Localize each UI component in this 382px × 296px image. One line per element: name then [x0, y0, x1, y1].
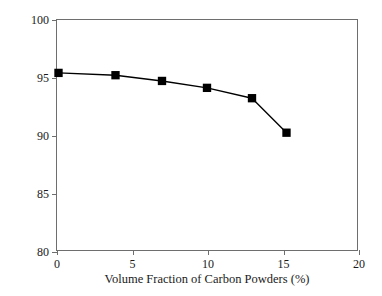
y-axis-tick	[52, 20, 57, 21]
x-axis-tick	[208, 250, 209, 255]
series-markers	[54, 69, 290, 137]
x-axis-tick	[133, 250, 134, 255]
x-axis-tick-label: 0	[54, 257, 60, 272]
chart-figure: 8085909510005101520 Ratio of Recoverable…	[0, 0, 382, 296]
y-axis-tick	[52, 78, 57, 79]
y-axis-tick	[52, 136, 57, 137]
x-axis-tick	[359, 250, 360, 255]
plot-area: 8085909510005101520	[56, 19, 358, 251]
y-axis-tick	[52, 194, 57, 195]
data-point-marker	[203, 84, 211, 92]
series-line	[59, 73, 287, 133]
data-point-marker	[111, 71, 119, 79]
y-axis-tick-label: 80	[37, 245, 49, 260]
data-point-marker	[282, 129, 290, 137]
y-axis-tick-label: 90	[37, 129, 49, 144]
x-axis-tick-label: 15	[278, 257, 290, 272]
x-axis-tick	[57, 250, 58, 255]
y-axis-tick-label: 85	[37, 187, 49, 202]
x-axis-tick-label: 20	[353, 257, 365, 272]
y-axis-tick-label: 95	[37, 71, 49, 86]
x-axis-tick	[284, 250, 285, 255]
data-point-marker	[158, 77, 166, 85]
x-axis-title: Volume Fraction of Carbon Powders (%)	[56, 272, 358, 287]
data-series-layer	[57, 20, 357, 250]
data-point-marker	[248, 94, 256, 102]
x-axis-tick-label: 5	[130, 257, 136, 272]
y-axis-tick-label: 100	[31, 13, 49, 28]
x-axis-tick-label: 10	[202, 257, 214, 272]
data-point-marker	[54, 69, 62, 77]
